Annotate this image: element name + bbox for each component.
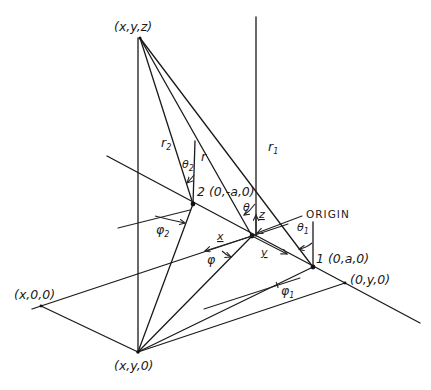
theta2-arc	[187, 175, 194, 183]
label-x00: (x,0,0)	[14, 287, 55, 302]
label-phi2: φ2	[156, 222, 169, 239]
r2-line	[140, 38, 193, 204]
label-point1: 1 (0,a,0)	[316, 251, 369, 266]
point-x00	[40, 305, 43, 308]
label-projection: (x,y,0)	[114, 358, 153, 373]
line-xy0-to-origin	[138, 236, 252, 352]
point-field	[139, 37, 142, 40]
label-x0: x	[216, 230, 224, 243]
theta1-arc	[299, 243, 312, 249]
label-theta: θ	[243, 201, 250, 214]
label-y0: y	[260, 246, 268, 259]
label-field-point: (x,y,z)	[114, 19, 152, 34]
phi-arc	[222, 251, 231, 257]
label-z0: z	[258, 208, 265, 221]
y0-arrow	[252, 236, 287, 254]
label-theta2: θ2	[182, 158, 194, 173]
label-r: r	[201, 149, 207, 164]
label-origin: ORIGIN	[306, 208, 350, 220]
label-theta1: θ1	[297, 221, 309, 236]
label-r1: r1	[268, 139, 278, 156]
point-xy0	[136, 350, 140, 354]
label-point2: 2 (0,-a,0)	[197, 184, 255, 199]
label-0y0: (0,y,0)	[350, 272, 390, 287]
label-r2: r2	[161, 135, 171, 152]
line-x00-to-xy0	[41, 306, 138, 352]
prolate-spheroidal-coordinate-diagram: (x,y,z) (x,y,0) (x,0,0) (0,y,0) 1 (0,a,0…	[0, 0, 431, 390]
point-1	[311, 265, 316, 270]
point-2	[191, 202, 196, 207]
r-line	[140, 38, 252, 236]
phi2-ray	[118, 210, 190, 228]
y-axis	[107, 156, 420, 323]
label-phi1: φ1	[281, 283, 294, 300]
label-phi: φ	[207, 252, 216, 267]
point-0y0	[344, 282, 347, 285]
line-xy0-to-0y0	[138, 283, 345, 352]
